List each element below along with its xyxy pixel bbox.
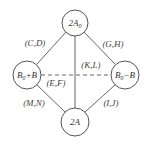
edge-label-gh: (G,H) [102,39,123,49]
edge-label-mn: (M,N) [23,98,45,108]
edge-label-cd: (C,D) [25,38,46,48]
node-top: 2A0 [62,10,88,36]
node-right: B0−B [111,61,139,89]
graph-diagram: 2A0 B0+B B0−B 2A (C,D) (G,H) (K,L) (E,F)… [0,0,145,145]
edge-label-ef: (E,F) [46,78,65,88]
node-bottom: 2A [61,108,89,136]
edge-top-left [37,32,66,64]
svg-text:B0−B: B0−B [115,70,136,81]
svg-text:2A: 2A [70,117,81,127]
node-left: B0+B [13,61,41,89]
svg-text:B0+B: B0+B [17,70,38,81]
edge-label-kl: (K,L) [81,60,100,70]
edge-label-ij: (I,J) [103,98,118,108]
